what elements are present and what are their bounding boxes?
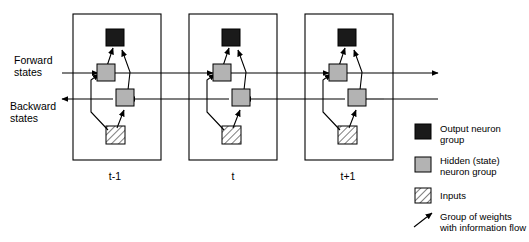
legend-weights-label-line2: with information flow [440, 222, 526, 233]
legend-hidden-label-line1: Hidden (state) [440, 155, 500, 166]
forward-hidden-node [97, 64, 115, 81]
diagram-graphics [0, 0, 529, 242]
forward-hidden-node [329, 64, 347, 81]
legend-output-label-line2: group [440, 134, 464, 145]
cell-t [207, 29, 250, 144]
forward-states-label-line2: states [14, 66, 42, 78]
legend-hidden-swatch [415, 157, 431, 172]
input-node [106, 126, 125, 144]
bidirectional-rnn-diagram: Forward states Backward states t-1 t t+1… [0, 0, 529, 242]
timestep-label-t: t [215, 170, 251, 182]
input-node [222, 126, 241, 144]
legend-output-swatch [415, 124, 431, 139]
backward-hidden-node [116, 89, 134, 106]
output-node [338, 29, 356, 46]
legend-weights-label-line1: Group of weights [440, 211, 512, 222]
backward-hidden-node [232, 89, 250, 106]
output-node [222, 29, 240, 46]
cell-t-minus-1 [91, 29, 134, 144]
input-node [338, 126, 357, 144]
timestep-label-t-minus-1: t-1 [97, 170, 133, 182]
cell-t-plus-1 [323, 29, 366, 144]
forward-hidden-node [213, 64, 231, 81]
backward-hidden-node [348, 89, 366, 106]
output-node [106, 29, 124, 46]
legend-arrow-swatch [414, 213, 432, 227]
timestep-label-t-plus-1: t+1 [330, 170, 366, 182]
legend-output-label-line1: Output neuron [440, 123, 501, 134]
legend-input-label-line1: Inputs [440, 190, 466, 201]
legend-swatches [414, 124, 432, 227]
backward-states-label-line1: Backward [10, 100, 56, 112]
legend-hidden-label-line2: neuron group [440, 166, 497, 177]
legend-input-swatch [415, 188, 431, 203]
forward-states-label-line1: Forward [14, 54, 53, 66]
backward-states-label-line2: states [10, 112, 38, 124]
